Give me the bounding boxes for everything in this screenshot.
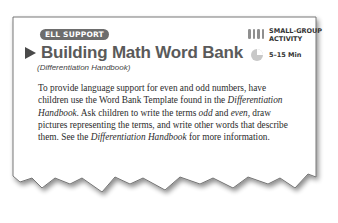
ell-support-badge: ELL SUPPORT <box>40 29 109 40</box>
duration-row: 5–15 Min <box>248 49 322 61</box>
duration-label: 5–15 Min <box>269 49 301 61</box>
description-segment: and <box>213 108 231 118</box>
group-size-row: SMALL-GROUP ACTIVITY <box>248 28 322 43</box>
triangle-arrow-icon <box>25 47 36 59</box>
activity-meta: SMALL-GROUP ACTIVITY 5–15 Min <box>248 28 322 67</box>
description-segment: Ask children to write the terms <box>79 108 199 118</box>
title-row: Building Math Word Bank <box>25 43 243 63</box>
activity-title: Building Math Word Bank <box>41 43 243 63</box>
description-segment: Differentiation Handbook <box>91 132 187 142</box>
description-segment: even, <box>231 108 250 118</box>
activity-subtitle: (Differentiation Handbook) <box>37 63 130 72</box>
description-segment: for more information. <box>187 132 270 142</box>
description-segment: odd <box>199 108 213 118</box>
group-size-label: SMALL-GROUP ACTIVITY <box>269 28 322 43</box>
activity-description: To provide language support for even and… <box>38 82 298 143</box>
clock-icon <box>251 49 263 61</box>
group-label-line2: ACTIVITY <box>269 36 322 44</box>
small-group-icon <box>248 28 265 40</box>
